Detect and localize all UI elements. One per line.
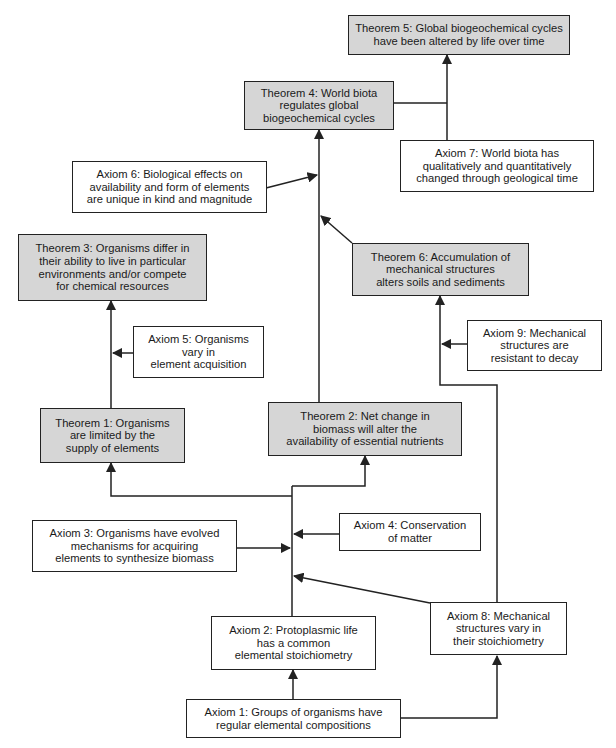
axiom-5-text: Axiom 5: Organisms vary in element acqui…	[148, 333, 249, 371]
axiom-5-box: Axiom 5: Organisms vary in element acqui…	[133, 326, 264, 378]
theorem-5-text: Theorem 5: Global biogeochemical cycles …	[355, 22, 563, 47]
edge-trunk-theorem1	[111, 463, 292, 496]
axiom-9-box: Axiom 9: Mechanical structures are resis…	[467, 320, 602, 371]
axiom-9-text: Axiom 9: Mechanical structures are resis…	[483, 327, 586, 365]
theorem-4-box: Theorem 4: World biota regulates global …	[244, 81, 394, 130]
axiom-1-box: Axiom 1: Groups of organisms have regula…	[186, 699, 401, 738]
theorem-2-box: Theorem 2: Net change in biomass will al…	[268, 402, 462, 456]
theorem-1-box: Theorem 1: Organisms are limited by the …	[40, 408, 185, 463]
axiom-2-box: Axiom 2: Protoplasmic life has a common …	[211, 616, 376, 670]
theorem-6-text: Theorem 6: Accumulation of mechanical st…	[371, 251, 510, 289]
theorem-3-box: Theorem 3: Organisms differ in their abi…	[18, 234, 207, 301]
edge-axiom1-axiom8	[400, 656, 497, 718]
axiom-8-box: Axiom 8: Mechanical structures vary in t…	[430, 602, 567, 655]
axiom-4-text: Axiom 4: Conservation of matter	[354, 519, 467, 544]
theorem-6-box: Theorem 6: Accumulation of mechanical st…	[352, 243, 529, 296]
theorem-5-box: Theorem 5: Global biogeochemical cycles …	[348, 15, 570, 55]
edge-theorem6-theorem4	[321, 216, 352, 243]
axiom-1-text: Axiom 1: Groups of organisms have regula…	[205, 706, 383, 731]
edge-axiom6-theorem4	[266, 175, 317, 188]
axiom-7-text: Axiom 7: World biota has qualitatively a…	[416, 147, 578, 185]
theorem-1-text: Theorem 1: Organisms are limited by the …	[55, 417, 169, 455]
axiom-2-text: Axiom 2: Protoplasmic life has a common …	[229, 624, 358, 662]
theorem-3-text: Theorem 3: Organisms differ in their abi…	[36, 242, 190, 292]
edge-trunk-theorem2	[292, 456, 365, 486]
axiom-4-box: Axiom 4: Conservation of matter	[339, 513, 481, 551]
axiom-3-text: Axiom 3: Organisms have evolved mechanis…	[50, 527, 220, 565]
axiom-8-text: Axiom 8: Mechanical structures vary in t…	[447, 610, 550, 648]
theorem-2-text: Theorem 2: Net change in biomass will al…	[286, 410, 443, 448]
edge-axiom8-trunk	[294, 576, 430, 603]
axiom-theorem-diagram: Theorem 5: Global biogeochemical cycles …	[0, 0, 616, 748]
theorem-4-text: Theorem 4: World biota regulates global …	[261, 87, 378, 125]
axiom-6-text: Axiom 6: Biological effects on availabil…	[87, 168, 252, 206]
axiom-7-box: Axiom 7: World biota has qualitatively a…	[400, 140, 594, 192]
axiom-6-box: Axiom 6: Biological effects on availabil…	[72, 161, 267, 213]
axiom-3-box: Axiom 3: Organisms have evolved mechanis…	[32, 520, 237, 572]
